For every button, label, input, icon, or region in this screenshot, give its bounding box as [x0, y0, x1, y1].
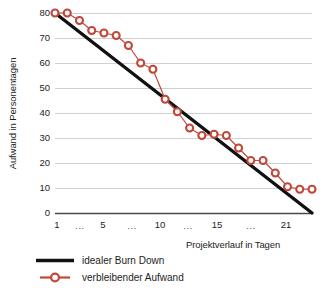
- gridlines: [55, 14, 312, 189]
- data-point-marker: [64, 10, 71, 17]
- burn-down-chart: Aufwand in Personentagen Projektverlauf …: [0, 0, 325, 291]
- data-point-marker: [113, 32, 120, 39]
- data-point-marker: [260, 157, 267, 164]
- data-point-marker: [162, 96, 169, 103]
- data-point-marker: [309, 186, 316, 193]
- data-point-marker: [100, 30, 107, 37]
- data-point-marker: [223, 132, 230, 139]
- plot-area: [0, 0, 325, 291]
- data-point-marker: [198, 132, 205, 139]
- data-point-marker: [272, 170, 279, 177]
- data-point-marker: [235, 145, 242, 152]
- remaining-effort-line: [55, 13, 312, 189]
- data-point-marker: [76, 17, 83, 24]
- legend-item-remaining-effort: verbleibender Aufwand: [30, 269, 270, 286]
- legend-item-ideal-burn-down: idealer Burn Down: [30, 252, 270, 269]
- data-point-marker: [186, 125, 193, 132]
- data-point-marker: [174, 108, 181, 115]
- legend-label-ideal-burn-down: idealer Burn Down: [82, 255, 164, 266]
- data-point-marker: [88, 27, 95, 34]
- data-point-marker: [125, 42, 132, 49]
- legend-label-remaining-effort: verbleibender Aufwand: [82, 272, 184, 283]
- data-point-marker: [247, 157, 254, 164]
- legend-line-marker-key-icon: [30, 269, 82, 286]
- data-point-marker: [149, 66, 156, 73]
- data-point-marker: [137, 60, 144, 67]
- data-point-marker: [211, 131, 218, 138]
- data-point-marker: [296, 186, 303, 193]
- remaining-effort-markers: [52, 10, 316, 193]
- data-point-marker: [52, 10, 59, 17]
- legend-line-key-icon: [30, 252, 82, 269]
- chart-legend: idealer Burn Down verbleibender Aufwand: [30, 252, 270, 286]
- data-point-marker: [284, 183, 291, 190]
